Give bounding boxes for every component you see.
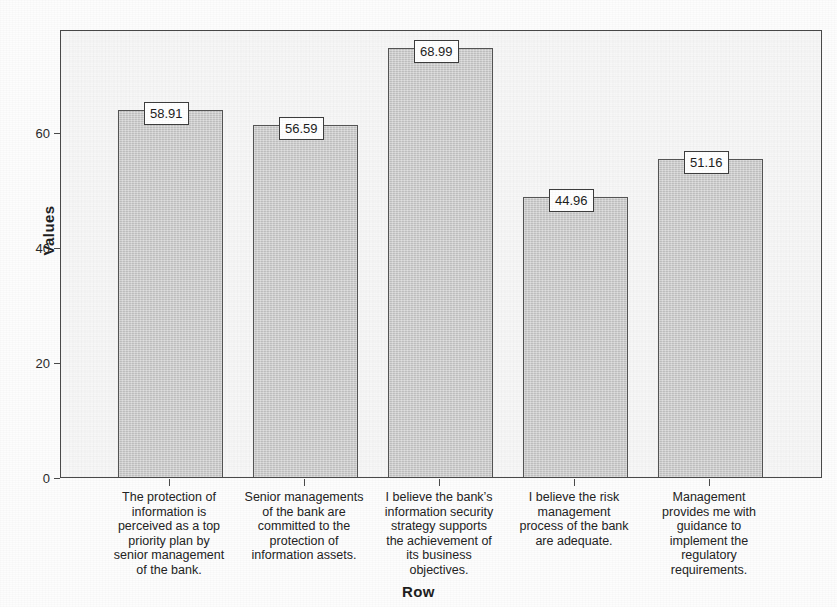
x-category-label-4-line-1: I believe the risk [504, 490, 644, 505]
x-category-label-3-line-6: objectives. [369, 563, 509, 578]
x-category-label-1-line-1: The protection of [99, 490, 239, 505]
x-category-label-3-line-4: the achievement of [369, 534, 509, 549]
y-tick-label-60: 60 [14, 126, 50, 141]
x-tick-mark-4 [574, 479, 575, 486]
x-tick-mark-5 [709, 479, 710, 486]
x-axis-title: Row [0, 583, 837, 600]
x-category-label-2: Senior managements of the bank are commi… [234, 490, 374, 563]
x-category-label-5-line-2: provides me with [639, 505, 779, 520]
x-category-label-3-line-3: strategy supports [369, 519, 509, 534]
x-category-label-3-line-1: I believe the bank’s [369, 490, 509, 505]
x-category-label-5-line-5: regulatory [639, 548, 779, 563]
chart-title [0, 0, 837, 2]
x-category-label-4-line-4: are adequate. [504, 534, 644, 549]
x-category-label-1-line-4: priority plan by [99, 534, 239, 549]
x-category-label-1-line-5: senior management [99, 548, 239, 563]
bar-chart-figure: Values 60 40 20 0 58.91 56.59 68.99 44.9… [0, 0, 837, 607]
x-category-label-4: I believe the risk management process of… [504, 490, 644, 548]
x-category-label-2-line-4: protection of [234, 534, 374, 549]
bar-value-label-3: 68.99 [414, 40, 459, 63]
x-tick-mark-1 [169, 479, 170, 486]
x-category-label-5-line-4: implement the [639, 534, 779, 549]
x-category-label-2-line-3: committed to the [234, 519, 374, 534]
bar-value-label-2: 56.59 [279, 117, 324, 140]
y-tick-label-40: 40 [14, 241, 50, 256]
x-category-label-3: I believe the bank’s information securit… [369, 490, 509, 577]
x-category-label-4-line-3: process of the bank [504, 519, 644, 534]
bar-5[interactable] [658, 159, 763, 477]
y-tick-label-0: 0 [14, 471, 50, 486]
x-category-label-2-line-5: information assets. [234, 548, 374, 563]
bar-value-label-1: 58.91 [144, 102, 189, 125]
x-category-label-1-line-3: perceived as a top [99, 519, 239, 534]
x-category-label-3-line-2: information security [369, 505, 509, 520]
x-category-label-2-line-2: of the bank are [234, 505, 374, 520]
x-category-label-1-line-2: information is [99, 505, 239, 520]
x-tick-mark-3 [439, 479, 440, 486]
bar-3[interactable] [388, 48, 493, 477]
x-category-label-4-line-2: management [504, 505, 644, 520]
x-category-label-2-line-1: Senior managements [234, 490, 374, 505]
bar-4[interactable] [523, 197, 628, 477]
bar-2[interactable] [253, 125, 358, 477]
y-axis-title: Values [40, 161, 57, 301]
x-category-label-5: Management provides me with guidance to … [639, 490, 779, 577]
x-category-label-5-line-6: requirements. [639, 563, 779, 578]
plot-area: 58.91 56.59 68.99 44.96 51.16 [60, 30, 822, 478]
x-category-label-3-line-5: its business [369, 548, 509, 563]
x-category-label-1: The protection of information is perceiv… [99, 490, 239, 577]
y-tick-mark-0 [54, 478, 60, 479]
bar-1[interactable] [118, 110, 223, 477]
x-category-label-5-line-3: guidance to [639, 519, 779, 534]
x-tick-mark-2 [304, 479, 305, 486]
bar-value-label-5: 51.16 [684, 151, 729, 174]
x-category-label-1-line-6: of the bank. [99, 563, 239, 578]
bar-value-label-4: 44.96 [549, 189, 594, 212]
x-category-label-5-line-1: Management [639, 490, 779, 505]
y-tick-label-20: 20 [14, 356, 50, 371]
